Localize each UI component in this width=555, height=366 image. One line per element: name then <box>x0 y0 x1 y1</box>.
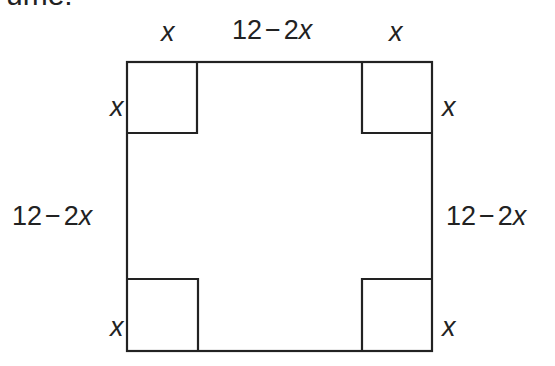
label-top-middle: 12−2x <box>232 17 312 44</box>
label-right-middle: 12−2x <box>446 203 526 230</box>
corner-cut-top-right <box>362 62 432 133</box>
label-left-lower-x: x <box>110 314 124 341</box>
corner-cut-bottom-left <box>127 279 198 351</box>
cutout-box-diagram <box>0 0 555 366</box>
label-left-upper-x: x <box>110 94 124 121</box>
label-left-middle: 12−2x <box>12 203 92 230</box>
corner-cut-top-left <box>127 62 197 133</box>
corner-cut-bottom-right <box>362 279 432 351</box>
outer-square <box>127 62 432 351</box>
label-right-upper-x: x <box>442 94 456 121</box>
label-top-right-x: x <box>389 19 403 46</box>
label-right-lower-x: x <box>442 314 456 341</box>
label-top-left-x: x <box>161 19 175 46</box>
